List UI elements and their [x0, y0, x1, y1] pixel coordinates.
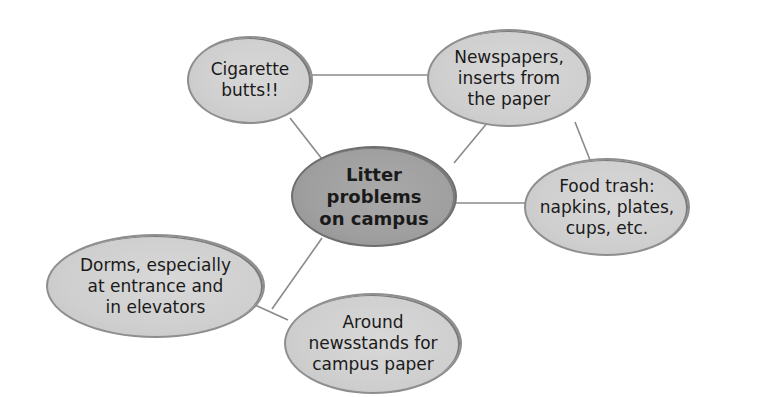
edge-newspapers-food — [575, 122, 590, 160]
node-label: Cigarette butts!! — [211, 59, 290, 101]
node-label: Dorms, especially at entrance and in ele… — [80, 255, 231, 318]
node-cigarette-butts: Cigarette butts!! — [187, 36, 313, 124]
edge-newspapers-center — [454, 122, 488, 163]
center-label: Litter problems on campus — [319, 164, 428, 230]
node-food-trash: Food trash: napkins, plates, cups, etc. — [524, 158, 690, 256]
node-dorms: Dorms, especially at entrance and in ele… — [46, 234, 265, 338]
edge-dorms-around — [255, 305, 288, 320]
edge-cigarette-center — [290, 118, 322, 159]
node-label: Around newsstands for campus paper — [308, 312, 437, 375]
edge-center-lower — [272, 238, 322, 309]
node-newspapers: Newspapers, inserts from the paper — [427, 29, 591, 127]
node-label: Food trash: napkins, plates, cups, etc. — [540, 176, 674, 239]
node-center-litter-problems: Litter problems on campus — [291, 146, 457, 247]
node-around-newsstands: Around newsstands for campus paper — [284, 293, 462, 394]
node-label: Newspapers, inserts from the paper — [454, 47, 564, 110]
